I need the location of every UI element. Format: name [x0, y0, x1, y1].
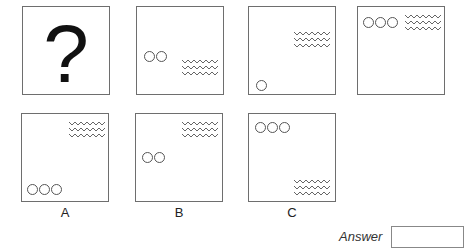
- option-a-label[interactable]: A: [21, 205, 109, 220]
- circle-icon: [142, 152, 153, 163]
- circle-icon: [154, 152, 165, 163]
- answer-label: Answer: [339, 229, 382, 244]
- circles-group: [27, 184, 62, 195]
- sequence-panel-2: [136, 6, 224, 95]
- circle-icon: [255, 122, 266, 133]
- answer-input[interactable]: [391, 226, 464, 248]
- option-a-panel[interactable]: [21, 113, 109, 202]
- sequence-panel-4: [357, 6, 445, 95]
- circle-icon: [256, 80, 267, 91]
- zigzag-icon: [182, 120, 218, 139]
- option-c-panel[interactable]: [248, 113, 336, 202]
- circles-group: [363, 17, 398, 28]
- sequence-panel-question: ?: [22, 6, 110, 95]
- option-b-label[interactable]: B: [135, 205, 223, 220]
- question-mark-icon: ?: [23, 13, 109, 95]
- circle-icon: [279, 122, 290, 133]
- circle-icon: [375, 17, 386, 28]
- circles-group: [255, 122, 290, 133]
- option-c-label[interactable]: C: [248, 205, 336, 220]
- circle-icon: [156, 51, 167, 62]
- circles-group: [144, 51, 167, 62]
- circles-group: [256, 80, 267, 91]
- zigzag-icon: [69, 120, 105, 139]
- circle-icon: [267, 122, 278, 133]
- zigzag-icon: [294, 30, 330, 49]
- circle-icon: [144, 51, 155, 62]
- zigzag-icon: [182, 58, 218, 77]
- circle-icon: [51, 184, 62, 195]
- option-b-panel[interactable]: [135, 113, 223, 202]
- circle-icon: [27, 184, 38, 195]
- sequence-panel-3: [248, 6, 336, 95]
- circle-icon: [363, 17, 374, 28]
- zigzag-icon: [405, 13, 441, 32]
- zigzag-icon: [294, 178, 330, 197]
- circle-icon: [39, 184, 50, 195]
- circle-icon: [387, 17, 398, 28]
- circles-group: [142, 152, 165, 163]
